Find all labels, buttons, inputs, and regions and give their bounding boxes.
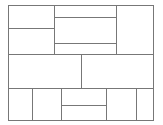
h-bot-mid-divider xyxy=(61,105,106,106)
h-top-left-divider xyxy=(8,28,54,29)
v-bot-4-divider xyxy=(136,88,137,121)
v-top-left-divider xyxy=(54,5,55,55)
v-mid-divider xyxy=(81,54,82,88)
h-top-mid-2-divider xyxy=(54,43,116,44)
h-row-2-divider xyxy=(8,88,154,89)
v-bot-3-divider xyxy=(106,88,107,121)
v-top-right-divider xyxy=(116,5,117,55)
v-bot-1-divider xyxy=(32,88,33,121)
h-top-mid-1-divider xyxy=(54,17,116,18)
